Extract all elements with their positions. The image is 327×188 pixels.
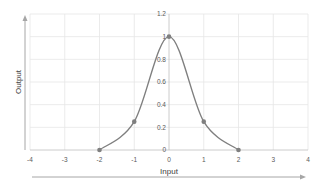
x-tick-label: -2 (97, 156, 103, 163)
x-axis-arrowhead-icon (300, 175, 306, 180)
x-tick-label: 3 (271, 156, 275, 163)
y-tick-labels: 00.20.40.60.811.2 (157, 10, 166, 153)
y-tick-label: 0.4 (157, 101, 166, 108)
data-point-marker (167, 34, 172, 39)
data-point-marker (132, 119, 137, 124)
y-tick-label: 0.2 (157, 124, 166, 131)
x-tick-labels: -4-3-2-101234 (27, 156, 310, 163)
y-axis-arrowhead-icon (23, 15, 28, 21)
chart: 00.20.40.60.811.2 -4-3-2-101234 Output I… (0, 0, 327, 188)
y-tick-label: 0.8 (157, 56, 166, 63)
x-tick-label: -3 (62, 156, 68, 163)
x-tick-label: -1 (131, 156, 137, 163)
x-tick-label: 2 (237, 156, 241, 163)
data-point-marker (236, 148, 241, 153)
y-tick-label: 0 (162, 146, 166, 153)
y-axis-title: Output (14, 69, 23, 94)
data-point-marker (201, 119, 206, 124)
x-tick-label: 1 (202, 156, 206, 163)
x-tick-label: 0 (167, 156, 171, 163)
data-point-marker (97, 148, 102, 153)
x-tick-label: 4 (306, 156, 310, 163)
x-axis-title: Input (160, 167, 179, 176)
y-tick-label: 1.2 (157, 10, 166, 17)
x-tick-label: -4 (27, 156, 33, 163)
y-tick-label: 0.6 (157, 78, 166, 85)
